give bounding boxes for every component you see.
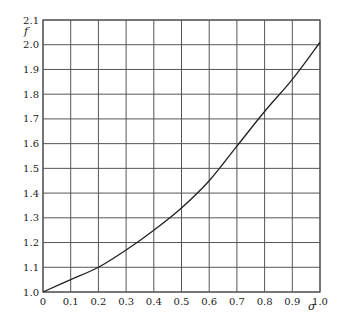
- chart: 1.01.11.21.31.41.51.61.71.81.92.02.1 00.…: [0, 0, 338, 322]
- x-tick-label: 0: [40, 296, 46, 307]
- y-tick-label: 1.0: [23, 287, 39, 298]
- x-tick-label: 0.6: [201, 296, 217, 307]
- x-tick-label: 0.9: [284, 296, 300, 307]
- grid: [43, 20, 320, 292]
- y-tick-label: 1.8: [23, 89, 39, 100]
- y-tick-label: 1.9: [23, 64, 39, 75]
- y-tick-label: 2.0: [23, 39, 39, 50]
- y-tick-label: 1.7: [23, 113, 39, 124]
- y-tick-label: 1.3: [23, 212, 39, 223]
- y-tick-label: 1.5: [23, 163, 39, 174]
- x-axis-label: σ: [308, 300, 316, 313]
- x-tick-label: 0.4: [146, 296, 162, 307]
- y-tick-label: 1.4: [23, 188, 39, 199]
- x-axis-ticks: 00.10.20.30.40.50.60.70.80.91.0: [40, 296, 328, 307]
- x-tick-label: 0.5: [174, 296, 190, 307]
- y-axis-ticks: 1.01.11.21.31.41.51.61.71.81.92.02.1: [23, 15, 39, 298]
- y-tick-label: 1.6: [23, 138, 39, 149]
- y-tick-label: 1.1: [23, 262, 39, 273]
- x-tick-label: 0.1: [63, 296, 79, 307]
- x-tick-label: 0.7: [229, 296, 245, 307]
- x-tick-label: 0.8: [257, 296, 273, 307]
- x-tick-label: 0.3: [118, 296, 134, 307]
- y-tick-label: 2.1: [23, 15, 39, 26]
- x-tick-label: 0.2: [90, 296, 106, 307]
- y-tick-label: 1.2: [23, 237, 39, 248]
- y-axis-label: f: [23, 25, 30, 38]
